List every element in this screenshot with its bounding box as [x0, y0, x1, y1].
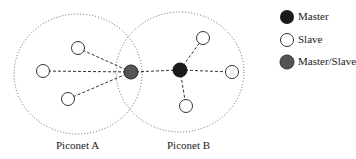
legend-master-slave-icon: [280, 55, 294, 69]
link: [43, 71, 131, 72]
legend-master-icon: [280, 10, 294, 24]
link: [78, 48, 131, 72]
legend-master-slave-label: Master/Slave: [298, 55, 356, 67]
slave-node: [62, 93, 75, 106]
master-slave-node: [124, 65, 138, 79]
legend-slave-label: Slave: [298, 33, 322, 45]
link: [68, 72, 131, 99]
piconet-a-label: Piconet A: [56, 139, 99, 151]
slave-node: [37, 65, 50, 78]
legend-slave-icon: [281, 34, 294, 47]
piconet-b-label: Piconet B: [167, 139, 210, 151]
slave-node: [72, 42, 85, 55]
link: [180, 70, 232, 72]
legend-master-label: Master: [298, 10, 329, 22]
piconet-a-boundary: [14, 14, 142, 134]
slave-node: [180, 100, 193, 113]
slave-node: [226, 66, 239, 79]
master-node: [173, 63, 187, 77]
slave-node: [197, 32, 210, 45]
